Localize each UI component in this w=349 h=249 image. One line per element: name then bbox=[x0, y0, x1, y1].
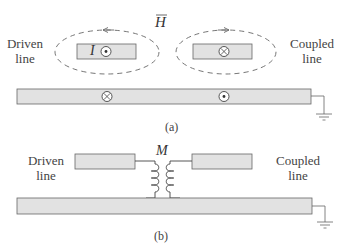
coupled-label-line2: line bbox=[269, 168, 327, 183]
driven-line-label-a: Driven line bbox=[0, 36, 50, 66]
driven-label-line2: line bbox=[21, 168, 71, 183]
ground-plane-a bbox=[17, 89, 311, 104]
current-in-icon bbox=[219, 47, 229, 57]
return-current-out-icon bbox=[219, 92, 229, 102]
caption-b: (b) bbox=[154, 229, 168, 244]
coupled-line-label-a: Coupled line bbox=[283, 36, 341, 66]
magnetic-field-symbol: H bbox=[155, 14, 166, 31]
driven-label-line2: line bbox=[0, 51, 50, 66]
arrow-right-icon bbox=[218, 28, 229, 33]
arrow-left-icon bbox=[103, 28, 114, 33]
figure-a bbox=[17, 15, 332, 120]
current-out-icon bbox=[101, 47, 111, 57]
ground-icon-b bbox=[312, 206, 333, 228]
mutual-inductance-symbol: M bbox=[156, 143, 168, 159]
current-symbol: I bbox=[90, 43, 95, 59]
coupled-line-label-b: Coupled line bbox=[269, 153, 327, 183]
coupled-conductor-b bbox=[192, 154, 252, 169]
driven-line-label-b: Driven line bbox=[21, 153, 71, 183]
ground-icon-a bbox=[311, 96, 332, 120]
driven-conductor-b bbox=[75, 154, 135, 169]
coupled-label-line2: line bbox=[283, 51, 341, 66]
coupled-label-line1: Coupled bbox=[269, 153, 327, 168]
secondary-coil-icon bbox=[166, 164, 180, 198]
driven-label-line1: Driven bbox=[21, 153, 71, 168]
ground-plane-b bbox=[17, 198, 312, 214]
primary-coil-icon bbox=[146, 164, 159, 198]
caption-a: (a) bbox=[165, 120, 178, 135]
coupled-label-line1: Coupled bbox=[283, 36, 341, 51]
driven-label-line1: Driven bbox=[0, 36, 50, 51]
return-current-in-icon bbox=[102, 92, 112, 102]
